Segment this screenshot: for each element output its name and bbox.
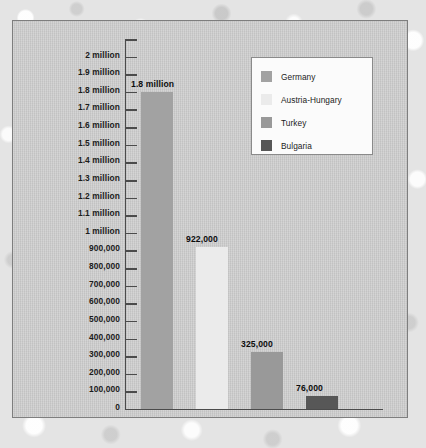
bar-bulgaria[interactable]: 76,000 (306, 396, 338, 409)
legend-swatch-icon (261, 117, 272, 128)
y-tick-label: 1.9 million (78, 67, 120, 77)
y-tick-label: 1.4 million (78, 155, 120, 165)
legend-swatch-icon (261, 94, 272, 105)
legend-label: Austria-Hungary (281, 95, 342, 105)
y-tick-label: 100,000 (89, 384, 120, 394)
y-tick-label: 200,000 (89, 367, 120, 377)
y-tick-mark (126, 74, 137, 76)
bar-value-label: 325,000 (241, 339, 273, 349)
y-tick-mark (126, 127, 137, 129)
legend-item-bulgaria[interactable]: Bulgaria (261, 135, 372, 156)
y-tick-mark (126, 233, 137, 235)
y-tick-label: 1 million (85, 226, 120, 236)
y-tick-mark (126, 109, 137, 111)
bar-value-label: 922,000 (186, 234, 218, 244)
y-tick-label: 500,000 (89, 314, 120, 324)
legend-label: Germany (281, 72, 315, 82)
bar-germany[interactable]: 1.8 million (141, 92, 173, 409)
legend-swatch-icon (261, 140, 272, 151)
y-tick-mark (126, 92, 137, 94)
y-tick-label: 1.3 million (78, 173, 120, 183)
y-axis-line (125, 39, 126, 409)
y-tick-mark (126, 321, 137, 323)
x-axis-line (125, 409, 383, 410)
y-tick-mark (126, 145, 137, 147)
y-tick-label: 900,000 (89, 243, 120, 253)
legend-label: Turkey (281, 118, 306, 128)
y-tick-mark (126, 374, 137, 376)
legend-item-turkey[interactable]: Turkey (261, 112, 372, 133)
y-tick-mark (126, 39, 137, 41)
y-tick-mark (126, 250, 137, 252)
y-tick-label: 300,000 (89, 349, 120, 359)
y-tick-mark (126, 391, 137, 393)
y-tick-label: 0 (115, 402, 120, 412)
y-tick-mark (126, 198, 137, 200)
bar-turkey[interactable]: 325,000 (251, 352, 283, 409)
legend-label: Bulgaria (281, 141, 312, 151)
chart-panel: 2 million1.9 million1.8 million1.7 milli… (12, 20, 408, 418)
y-tick-mark (126, 286, 137, 288)
page-background: 2 million1.9 million1.8 million1.7 milli… (0, 0, 426, 448)
y-tick-label: 400,000 (89, 332, 120, 342)
bar-value-label: 76,000 (296, 383, 323, 393)
y-tick-mark (126, 57, 137, 59)
y-tick-mark (126, 162, 137, 164)
y-tick-mark (126, 215, 137, 217)
chart-legend: GermanyAustria-HungaryTurkeyBulgaria (251, 57, 373, 155)
bar-value-label: 1.8 million (131, 79, 174, 89)
y-tick-label: 800,000 (89, 261, 120, 271)
y-tick-label: 1.7 million (78, 102, 120, 112)
y-tick-label: 2 million (85, 50, 120, 60)
legend-swatch-icon (261, 71, 272, 82)
legend-item-austria-hungary[interactable]: Austria-Hungary (261, 89, 372, 110)
y-tick-label: 1.6 million (78, 120, 120, 130)
y-tick-label: 1.1 million (78, 208, 120, 218)
y-tick-mark (126, 180, 137, 182)
bar-austria-hungary[interactable]: 922,000 (196, 247, 228, 409)
y-tick-label: 1.8 million (78, 85, 120, 95)
legend-item-germany[interactable]: Germany (261, 66, 372, 87)
y-tick-mark (126, 339, 137, 341)
y-tick-label: 1.2 million (78, 191, 120, 201)
y-tick-mark (126, 356, 137, 358)
y-tick-mark (126, 268, 137, 270)
y-tick-mark (126, 303, 137, 305)
y-tick-label: 700,000 (89, 279, 120, 289)
y-tick-label: 600,000 (89, 296, 120, 306)
y-tick-label: 1.5 million (78, 138, 120, 148)
